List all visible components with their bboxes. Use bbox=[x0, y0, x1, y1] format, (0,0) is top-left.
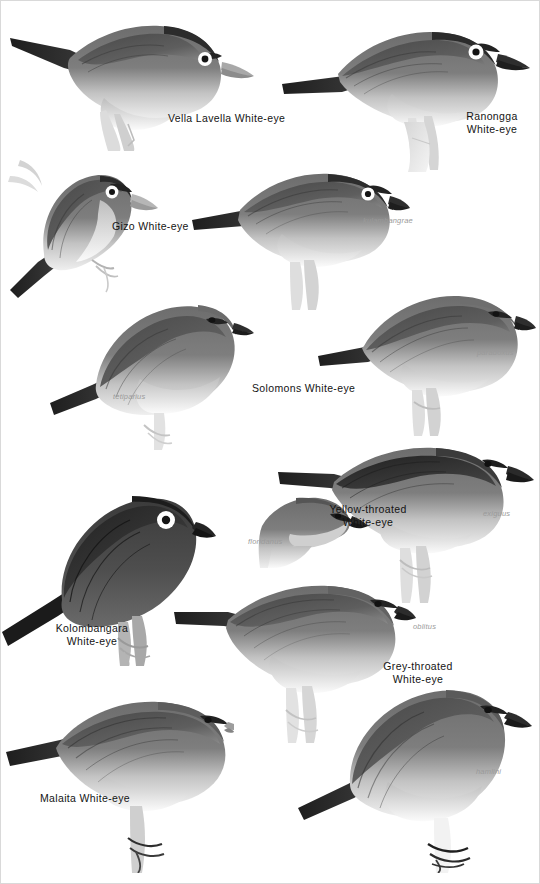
label-gizo-white-eye: Gizo White-eye bbox=[112, 220, 189, 233]
label-solomons-white-eye: Solomons White-eye bbox=[252, 382, 355, 395]
label-grey-throated-white-eye: Grey-throated White-eye bbox=[372, 660, 464, 686]
bird-ranongga-white-eye bbox=[280, 12, 534, 172]
sublabel-exiguus: exiguus bbox=[483, 509, 510, 518]
label-ranongga-white-eye: Ranongga White-eye bbox=[449, 110, 535, 136]
sublabel-tetiparius: tetiparius bbox=[113, 392, 145, 401]
bird-vella-lavella-white-eye bbox=[8, 6, 266, 151]
bird-solomons-white-eye-tetiparius bbox=[48, 285, 256, 450]
bird-solomons-white-eye-paradoxus bbox=[316, 284, 536, 436]
illustration-plate: Vella Lavella White-eye Ranongga White-e… bbox=[0, 0, 540, 884]
label-vella-lavella-white-eye: Vella Lavella White-eye bbox=[168, 112, 285, 125]
bird-yellow-throated-white-eye-floridanus bbox=[256, 490, 368, 570]
sublabel-hamlini: hamlini bbox=[476, 767, 501, 776]
sublabel-floridanus: floridanus bbox=[248, 537, 283, 546]
bird-malaita-white-eye bbox=[4, 688, 234, 873]
label-malaita-white-eye: Malaita White-eye bbox=[40, 792, 130, 805]
label-yellow-throated-white-eye: Yellow-throated White-eye bbox=[320, 503, 416, 529]
sublabel-paradoxus: paradoxus bbox=[477, 348, 514, 357]
label-kolombangara-white-eye: Kolombangara White-eye bbox=[44, 622, 140, 648]
sublabel-kulambangrae: kulambangrae bbox=[363, 216, 413, 225]
sublabel-oblitus: oblitus bbox=[413, 622, 436, 631]
